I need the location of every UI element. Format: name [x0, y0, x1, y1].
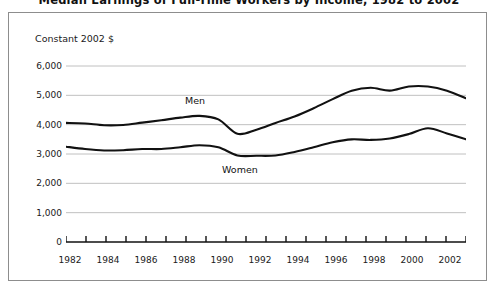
series-group [66, 86, 466, 156]
x-axis-ticks-group [66, 236, 466, 242]
y-tick-label-6000: 6,000 [16, 61, 62, 71]
y-tick-label-5000: 5,000 [16, 90, 62, 100]
figure-title: Median Earnings of Full-Time Workers by … [0, 0, 498, 7]
y-axis-units-label: Constant 2002 $ [35, 33, 114, 44]
figure-container: Median Earnings of Full-Time Workers by … [0, 0, 498, 289]
chart-svg [66, 60, 466, 246]
y-tick-label-4000: 4,000 [16, 120, 62, 130]
y-tick-label-1000: 1,000 [16, 208, 62, 218]
plot-area [66, 60, 466, 246]
y-tick-label-3000: 3,000 [16, 149, 62, 159]
series-line-women [66, 128, 466, 156]
y-tick-label-2000: 2,000 [16, 178, 62, 188]
y-tick-label-0: 0 [16, 237, 62, 247]
series-line-men [66, 86, 466, 134]
x-tick-label-2002: 2002 [427, 255, 473, 265]
